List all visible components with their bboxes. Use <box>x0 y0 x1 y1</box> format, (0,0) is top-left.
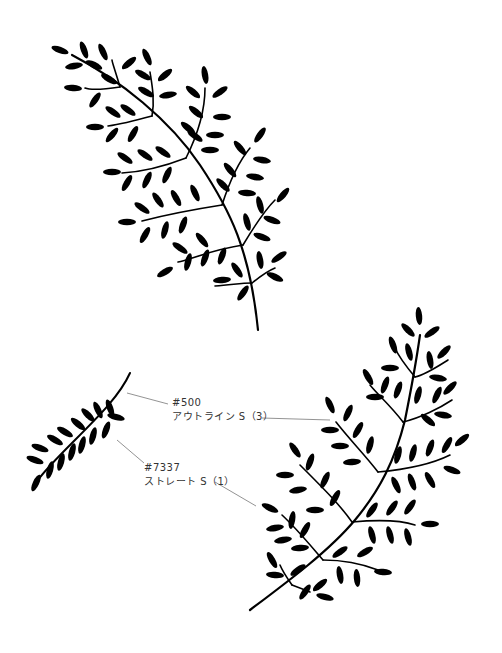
fern-large-top <box>50 40 291 330</box>
leader-line-500-top <box>127 393 168 404</box>
fern-large-bottom <box>250 307 471 610</box>
leader-line-7337-top <box>117 440 144 463</box>
annotation-7337: #7337 ストレート S（1） <box>144 461 235 489</box>
annotation-code: #7337 <box>144 461 235 475</box>
illustration-canvas <box>0 0 502 653</box>
annotation-500: #500 アウトライン S（3） <box>172 396 273 424</box>
annotation-brush-name: アウトライン S（3） <box>172 410 273 424</box>
annotation-brush-name: ストレート S（1） <box>144 475 235 489</box>
annotation-code: #500 <box>172 396 273 410</box>
fern-small-left <box>25 373 130 493</box>
